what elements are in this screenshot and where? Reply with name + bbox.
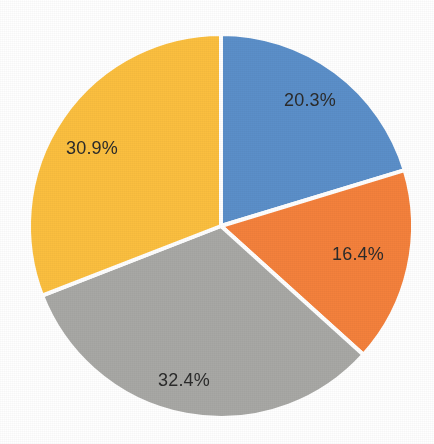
gray-slice-label: 32.4% xyxy=(158,370,210,390)
pie-chart-figure: 20.3% 16.4% 32.4% 30.9% xyxy=(0,0,434,444)
blue-slice-label: 20.3% xyxy=(284,90,336,110)
yellow-slice-label: 30.9% xyxy=(66,138,118,158)
pie-chart-svg: 20.3% 16.4% 32.4% 30.9% xyxy=(0,0,434,444)
pie-slices-group xyxy=(29,34,413,418)
orange-slice-label: 16.4% xyxy=(332,244,384,264)
